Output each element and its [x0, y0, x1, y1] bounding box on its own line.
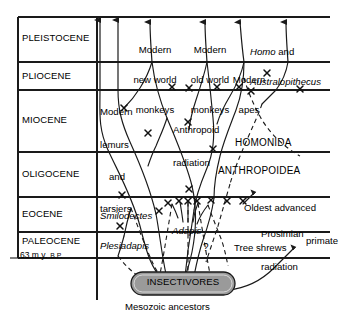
dashed-adapis-root-3 — [198, 203, 210, 274]
label-anthropoid-radiation: Anthropoid radiation — [173, 102, 237, 190]
label-line: radiation — [261, 261, 331, 272]
label-tree-shrews: Tree shrews — [234, 243, 286, 253]
time-marker-value: 63 m.y. — [20, 250, 47, 260]
label-mesozoic-ancestors: Mesozoic ancestors — [125, 302, 210, 312]
tip-line: Modern — [182, 45, 238, 55]
label-line: Modern — [100, 107, 156, 118]
epoch-label-pleistocene: PLEISTOCENE — [22, 33, 89, 43]
label-anthropoidea: ANTHROPOIDEA — [218, 166, 300, 176]
epoch-label-paleocene: PALEOCENE — [22, 236, 80, 246]
label-question-mark: ? — [203, 243, 209, 253]
lineage-prosimian-trunk — [185, 210, 194, 276]
dashed-anthropoidea-down — [206, 184, 230, 262]
time-marker-label: 63 m.y.B.P. — [20, 251, 62, 260]
tip-line-1: Homo and — [250, 47, 341, 57]
label-line: Anthropoid — [173, 124, 237, 135]
epoch-label-pliocene: PLIOCENE — [22, 71, 71, 81]
label-smilodectes: Smilodectes — [100, 211, 152, 221]
extinction-mark — [208, 197, 214, 203]
genus-homo: Homo — [250, 46, 276, 57]
extinction-mark — [176, 198, 182, 204]
epoch-label-oligocene: OLIGOCENE — [22, 169, 79, 179]
genus-australopithecus: Australopithecus — [250, 77, 341, 87]
primate-evolution-diagram: PLEISTOCENE PLIOCENE MIOCENE OLIGOCENE E… — [0, 0, 341, 322]
dashed-plesiadapis-root — [118, 256, 138, 276]
conjunction-and: and — [276, 46, 295, 57]
tip-line: new world — [126, 75, 184, 85]
time-marker-unit: B.P. — [50, 252, 62, 259]
label-line: lemurs — [100, 140, 156, 151]
label-homonida: HOMONIDA — [235, 138, 292, 148]
tip-label-homo-australopithecus: Homo and Australopithecus — [250, 27, 341, 107]
label-plesiadapis: Plesiadapis — [100, 241, 149, 251]
label-adapis: Adapis — [172, 226, 201, 236]
tip-line: Modern — [126, 45, 184, 55]
extinction-mark — [165, 200, 171, 206]
label-line: Prosimian — [261, 228, 331, 239]
epoch-label-eocene: EOCENE — [22, 209, 63, 219]
fan-adapis-1 — [172, 204, 178, 218]
extinction-mark — [156, 208, 162, 214]
fan-adapis-2 — [180, 202, 183, 222]
fan-adapis-5 — [197, 205, 208, 224]
label-insectivores: INSECTIVORES — [131, 277, 235, 287]
label-line: and — [100, 172, 156, 183]
dashed-prosimian-side — [208, 205, 228, 266]
epoch-label-miocene: MIOCENE — [22, 115, 67, 125]
